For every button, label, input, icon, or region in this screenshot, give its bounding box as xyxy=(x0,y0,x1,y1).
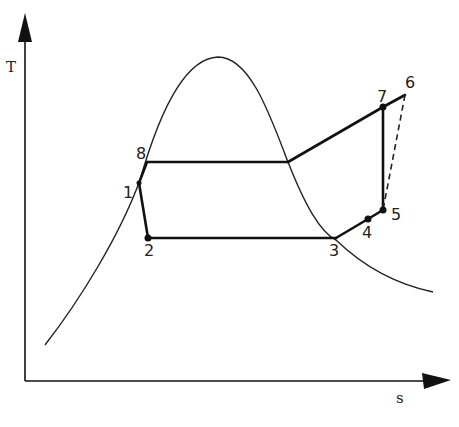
y-axis-arrow-icon xyxy=(18,13,32,42)
state-label-3: 3 xyxy=(329,241,339,260)
state-labels: 8 1 2 3 4 5 7 6 xyxy=(123,73,415,260)
state-dot-1 xyxy=(137,181,142,186)
cycle-paths xyxy=(139,95,405,238)
state-points xyxy=(137,104,387,242)
state-label-6: 6 xyxy=(405,73,415,92)
t-s-diagram: T s 8 1 2 3 4 5 7 6 xyxy=(0,0,459,427)
state-label-5: 5 xyxy=(391,205,401,224)
y-axis-label: T xyxy=(6,58,16,76)
state-dot-4 xyxy=(365,216,372,223)
state-label-1: 1 xyxy=(123,183,133,202)
x-axis-label: s xyxy=(396,389,404,407)
process-1-2 xyxy=(139,183,148,238)
x-axis-arrow-icon xyxy=(422,373,451,389)
state-label-8: 8 xyxy=(136,144,146,163)
state-label-4: 4 xyxy=(362,223,372,242)
process-superheat-to-7 xyxy=(288,107,383,162)
state-dot-5 xyxy=(380,207,387,214)
state-label-2: 2 xyxy=(144,241,154,260)
process-8-1 xyxy=(139,162,147,183)
saturation-dome xyxy=(45,57,433,345)
process-6-5-dashed xyxy=(383,95,405,210)
state-label-7: 7 xyxy=(377,87,387,106)
